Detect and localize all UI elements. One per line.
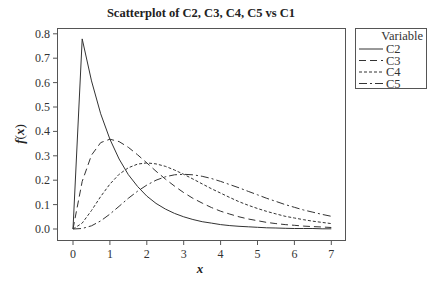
y-tick-label: 0.4	[35, 124, 50, 138]
x-axis: 01234567	[70, 241, 334, 262]
plot-frame	[58, 29, 346, 241]
y-axis-label: f(x)	[12, 124, 27, 144]
x-tick-label: 4	[218, 247, 224, 261]
x-tick-label: 2	[144, 247, 150, 261]
x-tick-label: 5	[255, 247, 261, 261]
x-tick-label: 1	[107, 247, 113, 261]
y-tick-label: 0.5	[35, 100, 50, 114]
x-axis-label: x	[196, 261, 204, 276]
legend-item-c5: C5	[386, 77, 401, 91]
y-tick-label: 0.7	[35, 51, 50, 65]
svg-text:f(x): f(x)	[12, 124, 27, 144]
series-c2	[73, 39, 331, 229]
legend: Variable C2C3C4C5	[356, 29, 427, 91]
series-c4	[73, 163, 331, 229]
x-tick-label: 0	[70, 247, 76, 261]
x-tick-label: 6	[291, 247, 297, 261]
chart: Scatterplot of C2, C3, C4, C5 vs C1 0.00…	[0, 0, 447, 285]
y-tick-label: 0.3	[35, 149, 50, 163]
x-tick-label: 7	[328, 247, 334, 261]
legend-title: Variable	[381, 29, 423, 43]
y-tick-label: 0.8	[35, 27, 50, 41]
y-tick-label: 0.1	[35, 198, 50, 212]
x-tick-label: 3	[181, 247, 187, 261]
y-tick-label: 0.2	[35, 173, 50, 187]
plot-series	[73, 39, 331, 229]
y-tick-label: 0.6	[35, 76, 50, 90]
y-axis: 0.00.10.20.30.40.50.60.70.8	[35, 27, 58, 236]
chart-title: Scatterplot of C2, C3, C4, C5 vs C1	[107, 6, 295, 20]
y-tick-label: 0.0	[35, 222, 50, 236]
